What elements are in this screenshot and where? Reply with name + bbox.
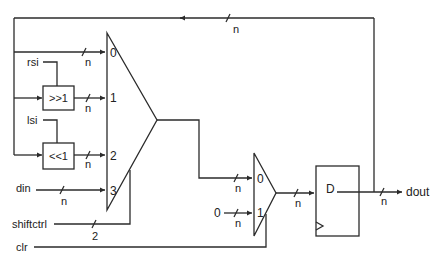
mux-input-2-wire: n: [74, 151, 105, 170]
register-d-label: D: [326, 182, 335, 196]
shift-register-diagram: n n rsi >>1 n lsi <<1 n din n 0 1 2 3 sh…: [0, 0, 439, 263]
dout-wire: n: [337, 188, 402, 207]
shift-left-label: <<1: [49, 150, 68, 162]
output-mux: [254, 153, 276, 236]
feedback-width-label: n: [233, 23, 239, 35]
mux-input-3-wire: n: [36, 186, 105, 207]
din-label: din: [16, 182, 31, 194]
shiftctrl-label: shiftctrl: [12, 218, 47, 230]
rsi-wire: [43, 62, 57, 86]
reg-in-width-label: n: [295, 197, 301, 209]
mux-out-width-label: n: [235, 182, 241, 194]
main-mux-input-2-label: 2: [110, 149, 117, 163]
clock-icon: [316, 222, 323, 230]
main-mux-input-3-label: 3: [110, 184, 117, 198]
main-mux-output-wire: n: [157, 120, 252, 194]
clr-wire: [34, 214, 266, 247]
rsi-label: rsi: [27, 56, 39, 68]
lsi-label: lsi: [27, 114, 37, 126]
lsi-wire: [43, 120, 57, 143]
register-input-wire: n: [276, 189, 314, 209]
zero-width-label: n: [235, 217, 241, 229]
main-mux-input-0-label: 0: [110, 46, 117, 60]
feedback-wire: n: [14, 14, 374, 192]
shiftctrl-width-label: 2: [92, 230, 98, 242]
shift-right-label: >>1: [49, 92, 68, 104]
constant-zero-label: 0: [214, 206, 221, 220]
output-mux-input-1-wire: n: [224, 209, 252, 229]
clr-label: clr: [16, 241, 28, 253]
dout-width-label: n: [381, 195, 387, 207]
input2-width-label: n: [85, 158, 91, 170]
main-mux-input-1-label: 1: [110, 91, 117, 105]
dout-label: dout: [406, 185, 430, 199]
mux-input-1-wire: n: [74, 94, 105, 114]
input0-width-label: n: [85, 56, 91, 68]
output-mux-input-0-label: 0: [257, 172, 264, 186]
output-mux-input-1-label: 1: [257, 206, 264, 220]
din-width-label: n: [61, 195, 67, 207]
input1-width-label: n: [85, 102, 91, 114]
